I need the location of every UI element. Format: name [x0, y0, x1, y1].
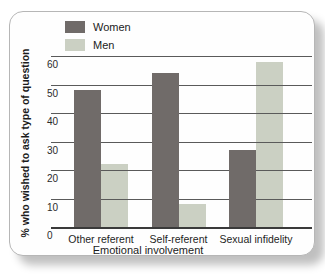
bar-women-self-referent	[152, 73, 179, 227]
y-tick-label-20: 20	[47, 173, 71, 184]
y-tick-label-0: 0	[47, 230, 71, 241]
y-axis-title: % who wished to ask type of question	[19, 43, 33, 243]
gridline-60	[51, 56, 312, 57]
bar-men-self-referent	[179, 204, 206, 227]
legend-row-men: Men	[65, 36, 131, 54]
y-tick-label-40: 40	[47, 116, 71, 127]
x-axis-line	[51, 227, 312, 229]
bar-men-other-referent	[101, 164, 128, 227]
legend-label-men: Men	[93, 39, 114, 51]
gridline-50	[51, 85, 312, 86]
y-tick-label-50: 50	[47, 88, 71, 99]
legend-row-women: Women	[65, 18, 131, 36]
y-tick-label-10: 10	[47, 202, 71, 213]
figure: WomenMen % who wished to ask type of que…	[0, 0, 325, 278]
bar-men-sexual-infidelity	[256, 62, 283, 227]
x-axis-title: Emotional involvement	[58, 244, 238, 256]
chart-panel: WomenMen % who wished to ask type of que…	[9, 11, 315, 256]
legend-swatch-men	[65, 39, 85, 51]
bar-women-sexual-infidelity	[229, 150, 256, 227]
bar-women-other-referent	[74, 90, 101, 227]
legend-swatch-women	[65, 21, 85, 33]
legend-label-women: Women	[93, 21, 131, 33]
legend: WomenMen	[65, 18, 131, 54]
plot-area: 0102030405060Other referentSelf-referent…	[51, 57, 312, 228]
y-tick-label-30: 30	[47, 145, 71, 156]
y-tick-label-60: 60	[47, 59, 71, 70]
